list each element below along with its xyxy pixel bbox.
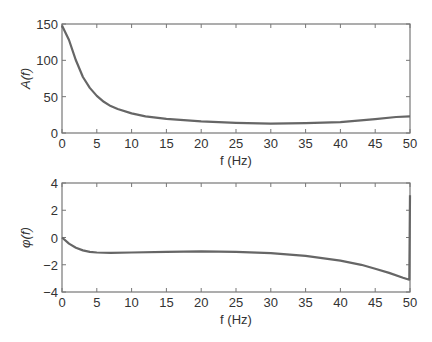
y-tick-label: 2 — [51, 203, 58, 218]
plot-frame — [62, 24, 410, 133]
x-tick-label: 40 — [333, 295, 347, 310]
x-axis-label: f (Hz) — [220, 153, 252, 168]
x-tick-label: 20 — [194, 295, 208, 310]
y-axis-label: φ(f) — [18, 227, 33, 248]
x-tick-label: 40 — [333, 136, 347, 151]
x-tick-label: 50 — [403, 295, 417, 310]
x-tick-label: 10 — [124, 295, 138, 310]
x-tick-label: 35 — [298, 295, 312, 310]
x-tick-label: 50 — [403, 136, 417, 151]
y-axis-label: A(f) — [18, 68, 33, 90]
x-tick-label: 10 — [124, 136, 138, 151]
amplitude-plot: 05101520253035404550050100150f (Hz)A(f) — [18, 17, 417, 168]
y-tick-label: −2 — [43, 258, 58, 273]
x-tick-label: 25 — [229, 136, 243, 151]
x-tick-label: 25 — [229, 295, 243, 310]
x-tick-label: 30 — [264, 136, 278, 151]
y-tick-label: −4 — [43, 285, 58, 300]
y-tick-label: 0 — [51, 231, 58, 246]
y-tick-label: 100 — [36, 53, 58, 68]
chart: 05101520253035404550050100150f (Hz)A(f)0… — [0, 0, 432, 342]
y-tick-label: 150 — [36, 17, 58, 32]
y-tick-label: 50 — [44, 90, 58, 105]
phase-plot: 05101520253035404550−4−2024f (Hz)φ(f) — [18, 176, 417, 327]
x-tick-label: 0 — [58, 136, 65, 151]
x-tick-label: 15 — [159, 136, 173, 151]
x-tick-label: 45 — [368, 295, 382, 310]
x-tick-label: 30 — [264, 295, 278, 310]
x-tick-label: 35 — [298, 136, 312, 151]
x-tick-label: 20 — [194, 136, 208, 151]
plot-frame — [62, 183, 410, 292]
x-tick-label: 5 — [93, 295, 100, 310]
y-tick-label: 4 — [51, 176, 58, 191]
y-tick-label: 0 — [51, 126, 58, 141]
x-axis-label: f (Hz) — [220, 312, 252, 327]
x-tick-label: 45 — [368, 136, 382, 151]
data-line — [62, 26, 410, 124]
x-tick-label: 0 — [58, 295, 65, 310]
data-line — [62, 195, 410, 279]
x-tick-label: 5 — [93, 136, 100, 151]
x-tick-label: 15 — [159, 295, 173, 310]
